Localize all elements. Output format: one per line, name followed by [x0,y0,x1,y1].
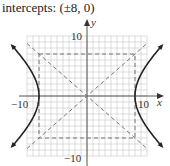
hyperbola-chart: y x 10 −10 −10 10 [0,0,170,166]
x-min-tick-label: −10 [11,98,29,110]
y-axis-label: y [90,16,96,28]
y-max-tick-label: 10 [71,30,83,42]
x-max-tick-label: 10 [138,98,150,110]
y-min-tick-label: −10 [64,152,82,164]
y-axis-arrow-icon [84,19,90,26]
x-axis-label: x [156,96,162,108]
